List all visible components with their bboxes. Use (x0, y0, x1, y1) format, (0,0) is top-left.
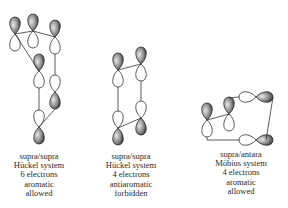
caption-line-allowedness: forbidden (86, 189, 176, 198)
p-orbital-3 (239, 92, 273, 103)
huckel-4e-diagram (113, 47, 147, 145)
caption-huckel-6e: supra/supra Hückel system 6 electrons ar… (0, 152, 84, 198)
caption-line-allowedness: allowed (196, 187, 286, 196)
p-orbital-4 (239, 135, 273, 146)
caption-line-allowedness: allowed (0, 189, 84, 198)
caption-huckel-4e: supra/supra Hückel system 4 electrons an… (86, 152, 176, 198)
mobius-4e-diagram (202, 92, 273, 146)
huckel-6e-diagram (10, 14, 61, 144)
p-orbital-5 (50, 75, 61, 109)
caption-mobius-4e: supra/antara Möbius system 4 electrons a… (196, 150, 286, 196)
